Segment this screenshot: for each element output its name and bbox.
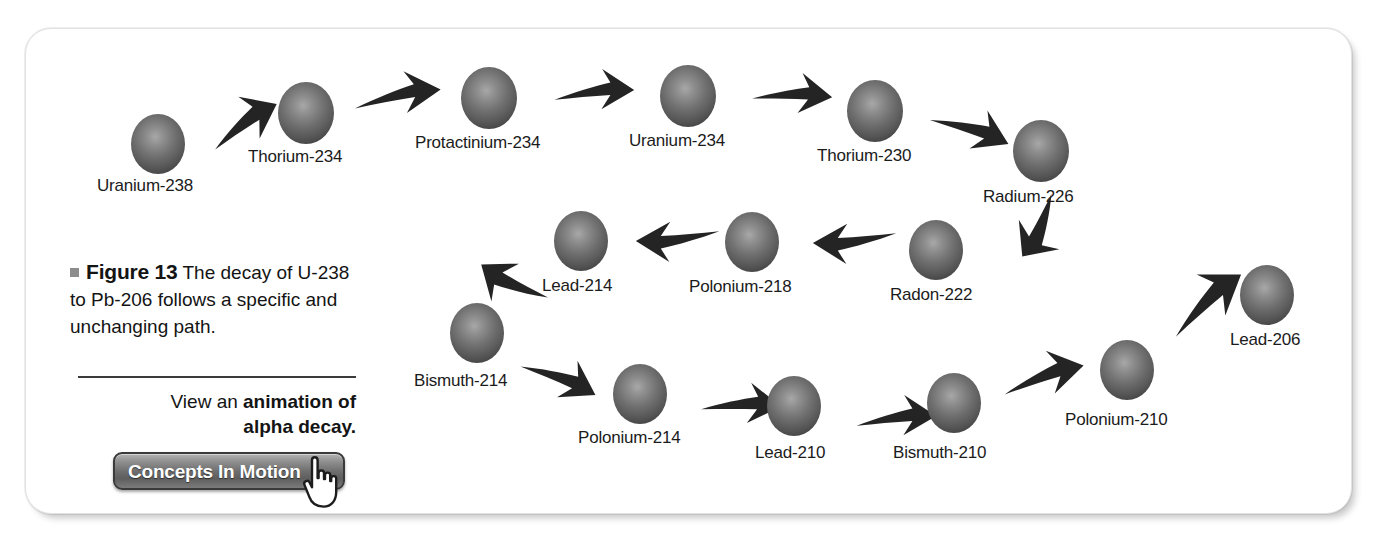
nuclide-sphere-rn222: [909, 220, 963, 280]
nuclide-sphere-bi210: [927, 373, 981, 433]
nuclide-label-ra226: Radium-226: [983, 187, 1074, 207]
nuclide-sphere-pb210: [767, 376, 821, 436]
figure-number-label: Figure 13: [86, 260, 178, 283]
promo-line1-plain: View an: [171, 391, 244, 412]
nuclide-label-pb214: Lead-214: [542, 276, 612, 296]
concepts-in-motion-button[interactable]: Concepts In Motion: [113, 452, 345, 490]
nuclide-label-po210: Polonium-210: [1065, 410, 1168, 430]
figure-caption-block: Figure 13 The decay of U-238 to Pb-206 f…: [70, 258, 370, 340]
figure-caption-text: Figure 13 The decay of U-238 to Pb-206 f…: [70, 258, 370, 340]
nuclide-label-bi210: Bismuth-210: [893, 443, 986, 463]
nuclide-sphere-th234: [278, 82, 334, 144]
nuclide-sphere-ra226: [1013, 120, 1069, 182]
nuclide-label-po214: Polonium-214: [578, 428, 681, 448]
nuclide-sphere-u234: [660, 65, 716, 127]
nuclide-sphere-bi214: [450, 303, 504, 363]
promo-text: View an animation of alpha decay.: [78, 389, 358, 439]
figure-screenshot: Uranium-238Thorium-234Protactinium-234Ur…: [0, 0, 1389, 559]
nuclide-label-u238: Uranium-238: [97, 176, 193, 196]
nuclide-label-u234: Uranium-234: [629, 131, 725, 151]
concepts-in-motion-label: Concepts In Motion: [128, 461, 301, 483]
nuclide-sphere-th230: [847, 80, 903, 142]
pointing-hand-cursor-icon: [298, 454, 344, 510]
nuclide-label-th234: Thorium-234: [248, 147, 342, 167]
nuclide-sphere-pb206: [1240, 265, 1294, 325]
nuclide-label-th230: Thorium-230: [817, 146, 911, 166]
nuclide-label-pa234: Protactinium-234: [415, 133, 540, 153]
nuclide-sphere-u238: [131, 114, 185, 174]
nuclide-label-pb210: Lead-210: [755, 443, 825, 463]
nuclide-label-pb206: Lead-206: [1230, 330, 1300, 350]
figure-bullet-icon: [70, 268, 79, 277]
nuclide-sphere-po214: [613, 364, 667, 424]
promo-divider: [78, 376, 356, 378]
nuclide-sphere-po218: [725, 212, 779, 272]
nuclide-label-bi214: Bismuth-214: [414, 371, 507, 391]
concepts-in-motion-promo: View an animation of alpha decay.: [78, 376, 358, 439]
nuclide-sphere-po210: [1100, 340, 1154, 400]
promo-line2-bold: alpha decay.: [243, 416, 356, 437]
nuclide-label-rn222: Radon-222: [890, 285, 972, 305]
nuclide-sphere-pa234: [461, 67, 517, 129]
promo-line1-bold: animation of: [243, 391, 356, 412]
nuclide-label-po218: Polonium-218: [689, 277, 792, 297]
nuclide-sphere-pb214: [554, 211, 608, 271]
